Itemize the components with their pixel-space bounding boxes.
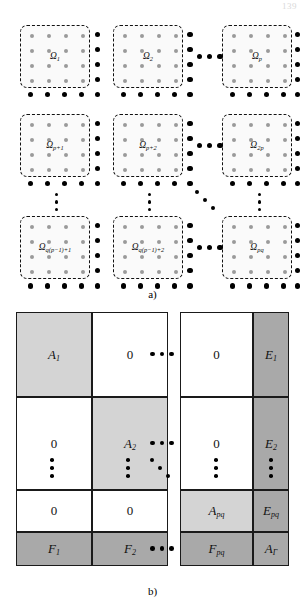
- subdomain-box: Ω2: [113, 25, 183, 88]
- matrix-block-label: F1: [48, 541, 60, 557]
- subdomain-label: Ωp+1: [21, 140, 89, 151]
- subdomain-label-symbol: Ω: [132, 242, 139, 252]
- matrix-block-symbol: E: [265, 436, 273, 451]
- interior-node-dot: [140, 153, 144, 157]
- interface-node-dot: [187, 32, 192, 37]
- interior-node-dot: [283, 123, 287, 127]
- subdomain-label: Ωq(p−1)+1: [21, 242, 89, 253]
- interior-node-dot: [249, 79, 253, 83]
- subdomain-box: Ωq(p−1)+2: [113, 216, 183, 279]
- interface-node-dot: [281, 181, 286, 186]
- interior-node-dot: [140, 34, 144, 38]
- horizontal-ellipsis: [197, 143, 223, 148]
- interior-node-dot: [174, 225, 178, 229]
- subdomain-label-subscript: pq: [257, 245, 263, 252]
- interior-node-dot: [64, 34, 68, 38]
- interior-node-dot: [157, 225, 161, 229]
- interior-node-dot: [283, 168, 287, 172]
- panel-b-block-matrix: A100E10A20E200ApqEpqF1F2FpqAΓ: [0, 310, 305, 580]
- matrix-diagonal-ellipsis: [150, 458, 174, 480]
- interior-node-dot: [30, 64, 34, 68]
- matrix-block: AΓ: [253, 532, 289, 566]
- matrix-block-symbol: A: [48, 347, 56, 362]
- interface-node-dot: [45, 181, 50, 186]
- interface-node-dot: [62, 181, 67, 186]
- interior-node-dot: [30, 34, 34, 38]
- interface-node-dot: [295, 223, 300, 228]
- interface-node-dot: [95, 62, 100, 67]
- page-number: 139: [282, 1, 297, 11]
- interface-node-dot: [95, 77, 100, 82]
- interior-node-dot: [232, 64, 236, 68]
- interface-node-dot: [187, 92, 192, 97]
- matrix-block-label: E1: [265, 347, 277, 363]
- interface-node-dot: [79, 92, 84, 97]
- subdomain-label-symbol: Ω: [50, 51, 57, 61]
- interior-node-dot: [266, 153, 270, 157]
- horizontal-ellipsis: [197, 245, 223, 250]
- matrix-block-label: 0: [51, 503, 58, 519]
- matrix-block-label: AΓ: [265, 541, 278, 557]
- matrix-block-symbol: E: [263, 503, 271, 518]
- horizontal-ellipsis: [197, 54, 223, 59]
- interior-node-dot: [249, 123, 253, 127]
- interior-node-dot: [283, 153, 287, 157]
- interface-node-dot: [172, 181, 177, 186]
- matrix-block-symbol: A: [124, 436, 132, 451]
- interface-node-dot: [187, 166, 192, 171]
- interior-node-dot: [283, 79, 287, 83]
- matrix-block-symbol: F: [48, 541, 56, 556]
- interior-node-dot: [266, 123, 270, 127]
- interface-node-dot: [155, 181, 160, 186]
- interior-node-dot: [266, 270, 270, 274]
- interior-node-dot: [30, 225, 34, 229]
- interior-node-dot: [174, 153, 178, 157]
- matrix-block-label: 0: [51, 436, 58, 452]
- interior-node-dot: [64, 255, 68, 259]
- interface-node-dot: [295, 253, 300, 258]
- diagonal-ellipsis: [195, 190, 221, 214]
- vertical-ellipsis: [55, 193, 58, 211]
- interior-node-dot: [123, 270, 127, 274]
- matrix-block-subscript: Γ: [273, 548, 278, 557]
- interior-node-dot: [249, 64, 253, 68]
- matrix-block-label: 0: [127, 347, 134, 363]
- matrix-block-label: 0: [127, 503, 134, 519]
- interior-node-dot: [64, 270, 68, 274]
- matrix-block-label: Epq: [263, 503, 279, 519]
- interface-node-dot: [95, 121, 100, 126]
- interior-node-dot: [266, 79, 270, 83]
- interior-node-dot: [232, 153, 236, 157]
- interior-node-dot: [47, 255, 51, 259]
- subdomain-label: Ωp: [223, 51, 291, 62]
- interior-node-dot: [249, 153, 253, 157]
- interface-node-dot: [295, 136, 300, 141]
- vertical-ellipsis: [258, 193, 261, 211]
- interior-node-dot: [232, 34, 236, 38]
- interface-node-dot: [187, 62, 192, 67]
- interface-node-dot: [187, 47, 192, 52]
- interface-node-dot: [187, 151, 192, 156]
- interface-node-dot: [295, 238, 300, 243]
- matrix-block-label: Fpq: [209, 541, 225, 557]
- matrix-horizontal-ellipsis: [150, 352, 174, 357]
- matrix-block-symbol: F: [124, 541, 132, 556]
- interior-node-dot: [232, 123, 236, 127]
- subdomain-box: Ωpq: [222, 216, 292, 279]
- matrix-zero-block: 0: [16, 490, 92, 532]
- subdomain-box: Ωq(p−1)+1: [20, 216, 90, 279]
- interface-node-dot: [155, 92, 160, 97]
- matrix-block-label: 0: [213, 347, 220, 363]
- interface-node-dot: [187, 77, 192, 82]
- matrix-block-subscript: pq: [216, 548, 224, 557]
- interior-node-dot: [249, 225, 253, 229]
- interface-node-dot: [95, 166, 100, 171]
- subdomain-label: Ω2p: [223, 140, 291, 151]
- subdomain-box: Ωp+1: [20, 114, 90, 177]
- matrix-block: A1: [16, 312, 92, 397]
- matrix-vertical-ellipsis: [126, 458, 130, 478]
- interior-node-dot: [64, 168, 68, 172]
- interior-node-dot: [157, 34, 161, 38]
- interface-node-dot: [295, 92, 300, 97]
- interface-node-dot: [295, 47, 300, 52]
